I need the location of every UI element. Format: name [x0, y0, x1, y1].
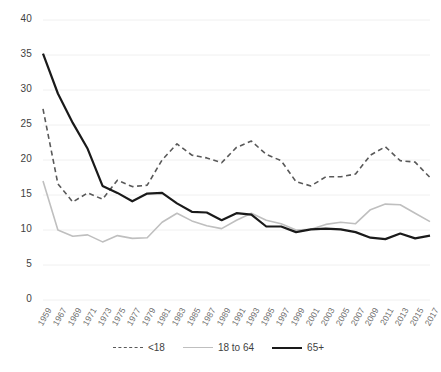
gridlines	[43, 20, 430, 300]
series-line-18	[43, 109, 430, 202]
y-axis-tick-label: 30	[8, 83, 32, 94]
legend-swatch-icon	[272, 347, 302, 349]
y-axis-tick-label: 40	[8, 13, 32, 24]
y-axis-tick-label: 15	[8, 188, 32, 199]
legend-item-65[interactable]: 65+	[272, 342, 324, 353]
y-axis-tick-label: 5	[8, 258, 32, 269]
y-axis-tick-label: 0	[8, 293, 32, 304]
legend-item-18[interactable]: <18	[113, 342, 165, 353]
legend-label: 18 to 64	[218, 342, 254, 353]
legend-label: <18	[148, 342, 165, 353]
legend-swatch-icon	[113, 347, 143, 348]
chart-legend: <1818 to 6465+	[0, 342, 437, 353]
legend-item-18-to-64[interactable]: 18 to 64	[183, 342, 254, 353]
y-axis-tick-label: 35	[8, 48, 32, 59]
legend-swatch-icon	[183, 347, 213, 348]
series-line-18-to-64	[43, 181, 430, 242]
y-axis-tick-label: 25	[8, 118, 32, 129]
series-lines	[43, 54, 430, 242]
y-axis-tick-label: 10	[8, 223, 32, 234]
legend-label: 65+	[307, 342, 324, 353]
y-axis-tick-label: 20	[8, 153, 32, 164]
series-line-65	[43, 54, 430, 240]
